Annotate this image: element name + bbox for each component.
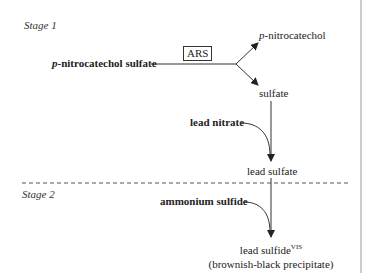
product-rest: -nitrocatechol	[265, 29, 326, 41]
final-product-superscript: VIS	[291, 243, 302, 251]
product-sulfate: sulfate	[259, 88, 288, 99]
reagent-ammonium-sulfide: ammonium sulfide	[160, 196, 248, 207]
final-product-note: (brownish-black precipitate)	[200, 259, 342, 270]
final-product: lead sulfideVIS	[212, 244, 330, 256]
product-nitrocatechol: p-nitrocatechol	[259, 30, 326, 41]
final-product-name: lead sulfide	[240, 244, 291, 256]
substrate-rest: -nitrocatechol sulfate	[58, 57, 157, 69]
stage-1-label: Stage 1	[24, 20, 57, 31]
intermediate-lead-sulfate: lead sulfate	[247, 166, 297, 177]
substrate-label: p-nitrocatechol sulfate	[52, 58, 157, 69]
reagent-lead-nitrate: lead nitrate	[190, 117, 244, 128]
enzyme-box: ARS	[183, 46, 212, 61]
lead-nitrate-curve	[241, 123, 270, 155]
stage-2-label: Stage 2	[22, 189, 55, 200]
arrow-to-sulfate	[236, 64, 258, 85]
arrow-to-nitrocatechol	[236, 43, 258, 64]
